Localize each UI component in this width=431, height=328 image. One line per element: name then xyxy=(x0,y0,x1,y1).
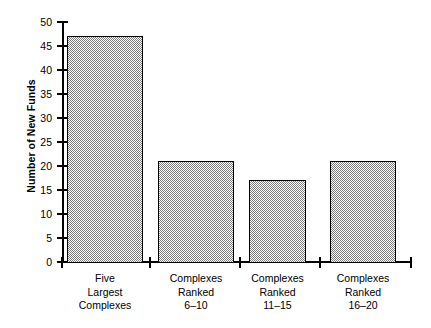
x-tick-mark xyxy=(410,257,412,268)
x-tick-mark xyxy=(149,257,151,268)
x-label-line: Complexes xyxy=(303,272,423,286)
y-tick-label-wrap: 35 xyxy=(18,89,52,100)
y-tick-mark xyxy=(57,21,68,23)
x-tick-mark xyxy=(319,257,321,268)
y-tick-label: 45 xyxy=(18,41,52,52)
y-tick-label: 25 xyxy=(18,137,52,148)
bar xyxy=(249,180,306,263)
x-tick-mark xyxy=(239,257,241,268)
y-tick-label-wrap: 25 xyxy=(18,137,52,148)
y-tick-label-wrap: 0 xyxy=(18,257,52,268)
y-tick-label: 15 xyxy=(18,185,52,196)
bar xyxy=(330,161,396,263)
y-tick-label-wrap: 40 xyxy=(18,65,52,76)
y-tick-label-wrap: 20 xyxy=(18,161,52,172)
y-tick-label: 20 xyxy=(18,161,52,172)
x-label-line: Ranked xyxy=(303,286,423,300)
x-axis-label: ComplexesRanked16–20 xyxy=(303,272,423,313)
y-tick-label: 50 xyxy=(18,17,52,28)
x-tick-mark xyxy=(61,257,63,268)
bar-chart: Number of New Funds 50454035302520151050… xyxy=(0,0,431,328)
y-tick-label: 40 xyxy=(18,65,52,76)
y-tick-label-wrap: 5 xyxy=(18,233,52,244)
y-tick-label-wrap: 50 xyxy=(18,17,52,28)
y-tick-label: 5 xyxy=(18,233,52,244)
y-tick-label-wrap: 15 xyxy=(18,185,52,196)
y-tick-label-wrap: 10 xyxy=(18,209,52,220)
bar xyxy=(158,161,234,263)
y-tick-label: 10 xyxy=(18,209,52,220)
bar xyxy=(67,36,143,263)
y-tick-label: 30 xyxy=(18,113,52,124)
y-tick-label-wrap: 30 xyxy=(18,113,52,124)
y-tick-label-wrap: 45 xyxy=(18,41,52,52)
y-tick-label: 35 xyxy=(18,89,52,100)
x-label-line: 16–20 xyxy=(303,299,423,313)
y-tick-label: 0 xyxy=(18,257,52,268)
